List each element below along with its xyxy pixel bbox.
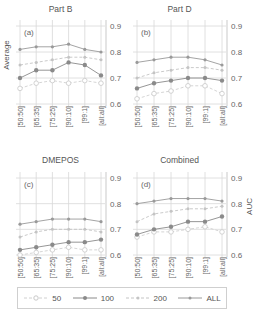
data-point bbox=[169, 78, 173, 82]
panel-title: DMEPOS bbox=[42, 155, 79, 165]
data-point bbox=[67, 217, 70, 220]
data-point bbox=[35, 220, 38, 223]
x-tick-label: [90:10] bbox=[185, 257, 193, 278]
data-point bbox=[50, 78, 55, 83]
series-line-50 bbox=[20, 247, 101, 255]
data-point bbox=[35, 230, 38, 233]
data-point bbox=[152, 91, 157, 96]
legend-swatch-all-icon bbox=[177, 294, 203, 302]
data-point bbox=[83, 217, 86, 220]
x-tick-label: [50:50] bbox=[17, 106, 25, 127]
data-point bbox=[34, 250, 39, 255]
y-tick-label: 0.7 bbox=[231, 225, 243, 234]
data-point bbox=[203, 58, 206, 61]
series-line-200 bbox=[137, 68, 222, 78]
data-point bbox=[83, 228, 86, 231]
data-point bbox=[66, 245, 71, 250]
data-point bbox=[83, 56, 86, 59]
x-tick-label: [65:35] bbox=[151, 257, 159, 278]
data-point bbox=[186, 76, 190, 80]
panel-title: Part B bbox=[49, 4, 73, 14]
data-point bbox=[135, 202, 138, 205]
data-point bbox=[170, 69, 173, 72]
series-line-50 bbox=[20, 81, 101, 89]
panel-label: (b) bbox=[141, 28, 151, 37]
data-point bbox=[152, 227, 156, 231]
legend-swatch-50-icon bbox=[23, 294, 49, 302]
panel-title: Part D bbox=[167, 4, 191, 14]
data-point bbox=[83, 63, 87, 67]
legend-label: 100 bbox=[101, 294, 114, 303]
chart-panel-d: 0.60.70.80.9Combined(d)[50:50][65:35][75… bbox=[133, 155, 254, 278]
data-point bbox=[18, 248, 22, 252]
data-point bbox=[136, 220, 139, 223]
data-point bbox=[34, 81, 39, 86]
data-point bbox=[18, 223, 21, 226]
legend-label: 200 bbox=[154, 294, 167, 303]
series-line-200 bbox=[20, 57, 101, 65]
data-point bbox=[186, 84, 191, 89]
legend-swatch-100-icon bbox=[72, 294, 98, 302]
data-point bbox=[50, 243, 54, 247]
series-line-all bbox=[137, 199, 222, 204]
x-tick-label: [99:1] bbox=[81, 106, 89, 124]
x-tick-label: [50:50] bbox=[134, 257, 142, 278]
data-point bbox=[152, 200, 155, 203]
series-line-50 bbox=[137, 227, 222, 237]
data-point bbox=[99, 81, 104, 86]
panel-label: (c) bbox=[24, 180, 34, 189]
y-tick-label: 0.8 bbox=[231, 48, 243, 57]
x-tick-label: [99:1] bbox=[202, 257, 210, 275]
legend-item-200: 200 bbox=[125, 294, 167, 303]
data-point bbox=[203, 224, 208, 229]
data-point bbox=[220, 63, 223, 66]
y-tick-label: 0.7 bbox=[110, 74, 122, 83]
data-point bbox=[169, 230, 174, 235]
data-point bbox=[34, 68, 38, 72]
y-tick-label: 0.7 bbox=[231, 74, 243, 83]
data-point bbox=[18, 253, 23, 258]
x-tick-label: [all:all] bbox=[98, 257, 106, 277]
x-tick-label: [99:1] bbox=[202, 106, 210, 124]
data-point bbox=[83, 48, 86, 51]
legend-item-100: 100 bbox=[72, 294, 114, 303]
data-point bbox=[83, 248, 88, 253]
data-point bbox=[136, 77, 139, 80]
y-tick-label: 0.7 bbox=[110, 225, 122, 234]
legend-item-50: 50 bbox=[23, 294, 61, 303]
series-line-100 bbox=[137, 78, 222, 88]
data-point bbox=[135, 86, 139, 90]
x-tick-label: [65:35] bbox=[151, 106, 159, 127]
y-tick-label: 0.6 bbox=[231, 251, 243, 260]
data-point bbox=[67, 43, 70, 46]
data-point bbox=[220, 214, 224, 218]
x-tick-label: [65:35] bbox=[33, 106, 41, 127]
x-tick-label: [all:all] bbox=[219, 257, 227, 277]
data-point bbox=[186, 227, 191, 232]
data-point bbox=[220, 230, 225, 235]
x-tick-label: [90:10] bbox=[65, 257, 73, 278]
y-axis-label: Average bbox=[2, 40, 11, 70]
x-tick-label: [75:25] bbox=[49, 257, 57, 278]
legend-label: 50 bbox=[52, 294, 61, 303]
data-point bbox=[19, 64, 22, 67]
data-point bbox=[153, 212, 156, 215]
chart-panel-c: 0.60.70.80.9DMEPOS(c)[50:50][65:35][75:2… bbox=[16, 155, 122, 278]
series-line-all bbox=[20, 219, 101, 224]
x-tick-label: [all:all] bbox=[219, 106, 227, 126]
data-point bbox=[203, 76, 207, 80]
y-tick-label: 0.9 bbox=[231, 22, 243, 31]
data-point bbox=[18, 86, 23, 91]
legend: 50 100 200 ALL bbox=[17, 287, 227, 309]
y-tick-label: 0.9 bbox=[110, 174, 122, 183]
data-point bbox=[220, 78, 224, 82]
data-point bbox=[169, 89, 174, 94]
x-tick-label: [65:35] bbox=[33, 257, 41, 278]
data-point bbox=[221, 69, 224, 72]
data-point bbox=[35, 61, 38, 64]
data-point bbox=[50, 68, 54, 72]
legend-swatch-200-icon bbox=[125, 294, 151, 302]
series-line-100 bbox=[137, 217, 222, 235]
legend-label: ALL bbox=[206, 294, 220, 303]
data-point bbox=[34, 245, 38, 249]
